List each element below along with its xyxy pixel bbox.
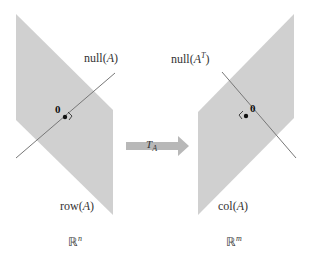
r-m-label: ℝm — [226, 235, 242, 248]
transformation-label: TA — [146, 139, 157, 153]
transformation-arrow-icon — [126, 136, 189, 156]
r-n-label: ℝn — [68, 235, 82, 248]
col-a-label: col(A) — [218, 200, 248, 212]
null-a-label: null(A) — [84, 52, 118, 64]
row-space-region — [16, 14, 113, 215]
origin-dot-right — [244, 114, 248, 118]
origin-dot-left — [63, 115, 67, 119]
row-a-label: row(A) — [60, 200, 94, 212]
origin-label-left: 0 — [55, 104, 61, 115]
fundamental-subspaces-diagram: null(A) 0 row(A) ℝn TA null(AT) 0 col(A)… — [0, 0, 313, 255]
null-a-transpose-label: null(AT) — [171, 52, 209, 65]
origin-label-right: 0 — [250, 103, 256, 114]
diagram-graphics — [0, 0, 313, 255]
